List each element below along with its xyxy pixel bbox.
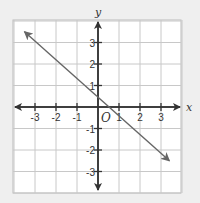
y-tick-label: 3 [89, 38, 95, 49]
coordinate-plane: -3-2-1123321-1-2-3 x y O [0, 0, 200, 203]
x-tick-label: -2 [52, 112, 61, 123]
x-tick-label: -3 [31, 112, 40, 123]
x-tick-label: 2 [137, 112, 143, 123]
origin-label: O [101, 111, 111, 125]
y-axis-label: y [94, 6, 102, 19]
x-tick-label: -1 [73, 112, 82, 123]
x-tick-label: 3 [158, 112, 164, 123]
y-tick-label: -2 [86, 145, 95, 156]
y-tick-label: 2 [89, 59, 95, 70]
x-axis-label: x [186, 101, 193, 114]
y-tick-label: -1 [86, 124, 95, 135]
y-tick-label: -3 [86, 167, 95, 178]
